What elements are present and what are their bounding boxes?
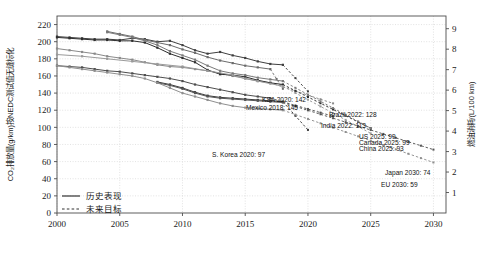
y2-axis-tick-label: 8 xyxy=(452,44,457,54)
y2-axis-tick-label: 5 xyxy=(452,106,457,116)
data-point-marker xyxy=(144,77,146,79)
data-point-marker xyxy=(206,86,208,88)
target-point-marker xyxy=(320,102,322,104)
data-point-marker xyxy=(68,49,70,51)
series-annotation-label: KSA 2020: 142 xyxy=(262,96,306,103)
target-point-marker xyxy=(320,105,322,107)
data-point-marker xyxy=(232,98,234,100)
target-point-marker xyxy=(307,129,309,131)
data-point-marker xyxy=(219,59,221,61)
data-point-marker xyxy=(269,63,271,65)
data-point-marker xyxy=(156,41,158,43)
data-point-marker xyxy=(206,53,208,55)
data-point-marker xyxy=(156,47,158,49)
data-point-marker xyxy=(257,77,259,79)
x-axis-tick-label: 2020 xyxy=(299,219,318,229)
series-annotation-label: India 2022: 113 xyxy=(321,122,366,129)
y-axis-tick-label: 100 xyxy=(38,123,52,133)
legend-label: 未来目标 xyxy=(86,204,122,214)
data-point-marker xyxy=(194,92,196,94)
target-point-marker xyxy=(370,129,372,131)
data-point-marker xyxy=(219,70,221,72)
data-point-marker xyxy=(56,53,58,55)
data-point-marker xyxy=(257,60,259,62)
x-axis-tick-label: 2030 xyxy=(424,219,443,229)
target-point-marker xyxy=(307,96,309,98)
data-point-marker xyxy=(219,89,221,91)
data-point-marker xyxy=(56,36,58,38)
target-point-marker xyxy=(307,90,309,92)
x-axis-tick-label: 2025 xyxy=(362,219,381,229)
y-axis-tick-label: 220 xyxy=(38,20,52,30)
target-point-marker xyxy=(294,77,296,79)
y-axis-tick-label: 20 xyxy=(42,191,52,201)
data-point-marker xyxy=(169,53,171,55)
data-point-marker xyxy=(257,80,259,82)
data-point-marker xyxy=(81,55,83,57)
data-point-marker xyxy=(131,36,133,38)
target-point-marker xyxy=(307,99,309,101)
target-point-marker xyxy=(432,161,434,163)
target-point-marker xyxy=(320,100,322,102)
target-point-marker xyxy=(307,109,309,111)
data-point-marker xyxy=(119,57,121,59)
data-point-marker xyxy=(244,99,246,101)
data-point-marker xyxy=(106,31,108,33)
x-axis-tick-label: 2000 xyxy=(48,219,67,229)
data-point-marker xyxy=(169,87,171,89)
y2-axis-tick-label: 9 xyxy=(452,24,457,34)
data-point-marker xyxy=(194,49,196,51)
y-axis-tick-label: 0 xyxy=(47,208,52,218)
co2-emissions-line-chart: 0204060801001201401601802002201234567892… xyxy=(0,0,483,259)
y-axis-tick-label: 160 xyxy=(38,71,52,81)
data-point-marker xyxy=(156,63,158,65)
data-point-marker xyxy=(68,37,70,39)
target-point-marker xyxy=(345,131,347,133)
data-point-marker xyxy=(131,40,133,42)
data-point-marker xyxy=(94,70,96,72)
data-point-marker xyxy=(219,51,221,53)
y2-axis-tick-label: 3 xyxy=(452,147,457,157)
data-point-marker xyxy=(206,56,208,58)
data-point-marker xyxy=(219,97,221,99)
data-point-marker xyxy=(81,38,83,40)
data-point-marker xyxy=(194,95,196,97)
data-point-marker xyxy=(68,66,70,68)
data-point-marker xyxy=(56,65,58,67)
data-point-marker xyxy=(94,53,96,55)
data-point-marker xyxy=(181,65,183,67)
data-point-marker xyxy=(257,66,259,68)
data-point-marker xyxy=(131,72,133,74)
y-axis-tick-label: 200 xyxy=(38,37,52,47)
target-point-marker xyxy=(294,114,296,116)
data-point-marker xyxy=(144,74,146,76)
x-axis-tick-label: 2015 xyxy=(236,219,255,229)
data-point-marker xyxy=(106,71,108,73)
data-point-marker xyxy=(194,52,196,54)
data-point-marker xyxy=(269,78,271,80)
data-point-marker xyxy=(119,40,121,42)
series-annotation-label: Brazil 2022: 128 xyxy=(329,111,377,118)
y-axis-title: CO₂排放量(g/km)按NEDC测试值无缝标化 xyxy=(5,47,15,182)
y2-axis-tick-label: 2 xyxy=(452,167,457,177)
target-point-marker xyxy=(307,118,309,120)
chart-root: 0204060801001201401601802002201234567892… xyxy=(0,0,483,259)
target-point-marker xyxy=(370,127,372,129)
data-point-marker xyxy=(169,84,171,86)
y2-axis-title: 燃油消耗/(L/100 km) xyxy=(466,81,476,147)
data-point-marker xyxy=(194,59,196,61)
y2-axis-tick-label: 4 xyxy=(452,126,457,136)
data-point-marker xyxy=(156,82,158,84)
target-point-marker xyxy=(332,102,334,104)
data-point-marker xyxy=(244,57,246,59)
data-point-marker xyxy=(106,39,108,41)
data-point-marker xyxy=(56,47,58,49)
data-point-marker xyxy=(194,83,196,85)
data-point-marker xyxy=(181,80,183,82)
y-axis-tick-label: 120 xyxy=(38,105,52,115)
legend-label: 历史表现 xyxy=(86,191,122,201)
data-point-marker xyxy=(232,74,234,76)
series-annotation-label: S. Korea 2020: 97 xyxy=(212,151,265,158)
data-point-marker xyxy=(244,74,246,76)
data-point-marker xyxy=(181,44,183,46)
